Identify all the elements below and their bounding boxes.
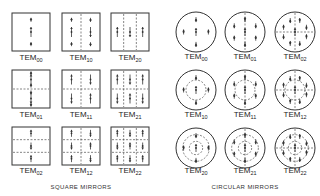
square-mode-cell <box>62 70 100 108</box>
square-mirror-patterns <box>12 13 149 165</box>
circular-mode-cell <box>275 12 315 52</box>
circular-mirror-patterns <box>176 12 315 168</box>
mode-label-square-10: TEM10 <box>69 53 92 63</box>
mode-label-square-11: TEM11 <box>70 110 93 120</box>
square-mode-cell <box>111 13 149 51</box>
mode-label-circular-22: TEM22 <box>283 166 306 176</box>
circular-mode-cell <box>176 12 216 52</box>
circular-mode-cell <box>176 70 216 110</box>
circular-mode-cell <box>275 128 315 168</box>
mode-label-square-02: TEM02 <box>19 166 42 176</box>
square-mode-cell <box>111 127 149 165</box>
mode-label-circular-11: TEM11 <box>234 110 257 120</box>
square-mode-cell <box>62 127 100 165</box>
circular-mode-cell <box>225 128 265 168</box>
square-mode-cell <box>111 70 149 108</box>
square-mode-cell <box>12 127 50 165</box>
mode-label-square-00: TEM00 <box>19 53 42 63</box>
mode-label-square-01: TEM01 <box>19 110 42 120</box>
square-mode-cell <box>12 70 50 108</box>
circular-mode-cell <box>275 70 315 110</box>
circular-mode-cell <box>225 12 265 52</box>
mode-label-circular-10: TEM10 <box>184 110 207 120</box>
mode-label-circular-20: TEM20 <box>184 166 207 176</box>
mode-pattern-diagram <box>0 0 320 196</box>
mode-label-circular-21: TEM21 <box>233 166 256 176</box>
mode-label-square-12: TEM12 <box>69 166 92 176</box>
mode-label-square-21: TEM21 <box>118 110 141 120</box>
circular-mode-cell <box>176 128 216 168</box>
square-mode-cell <box>62 13 100 51</box>
mode-label-square-22: TEM22 <box>118 166 141 176</box>
mode-label-circular-01: TEM01 <box>233 52 256 62</box>
mode-label-circular-12: TEM12 <box>283 110 306 120</box>
mode-label-circular-02: TEM02 <box>283 52 306 62</box>
mode-label-circular-00: TEM00 <box>184 52 207 62</box>
mode-label-square-20: TEM20 <box>118 53 141 63</box>
square-mirrors-caption: SQUARE MIRRORS <box>51 184 112 190</box>
circular-mode-cell <box>225 70 265 110</box>
square-mode-cell <box>12 13 50 51</box>
circular-mirrors-caption: CIRCULAR MIRRORS <box>211 184 278 190</box>
